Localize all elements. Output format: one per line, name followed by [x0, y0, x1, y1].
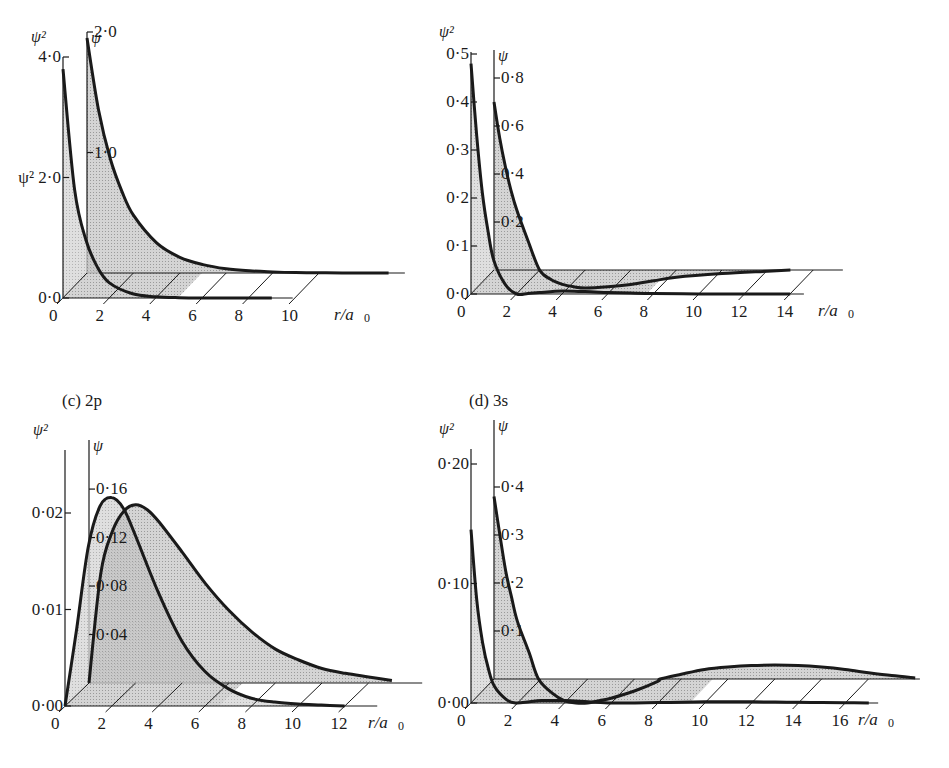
panel-c-x-tick-12: 12	[331, 715, 348, 732]
panel-d-psi-squared-tick-label: 0·10	[438, 575, 469, 592]
panel-a-psi-squared-tick-label: ψ² 2·0	[18, 169, 61, 186]
panel-d-grid-r16	[839, 679, 868, 709]
panel-c-x-tick-0: 0	[51, 715, 60, 732]
panel-d-x-tick-14: 14	[785, 712, 802, 729]
panel-a-x-tick-6: 6	[188, 307, 197, 324]
panel-d-psi-squared-tick-label: 0·20	[438, 455, 469, 472]
panel-b-psi-area	[494, 102, 790, 288]
panel-a-psi-squared-tick-label: 0·0	[38, 289, 61, 306]
panel-c-x-tick-4: 4	[144, 715, 153, 732]
panel-c-grid-r10	[292, 683, 322, 712]
panel-c-x-tick-2: 2	[98, 715, 107, 732]
panel-c-psi-tick-label: 0·04	[96, 626, 127, 643]
panel-d-x-tick-6: 6	[597, 712, 606, 729]
orbital-wavefunction-figure: (c) 2p (d) 3s 02468100·0ψ² 2·04·0ψ²1·02·…	[0, 0, 949, 768]
panel-d-psi-squared-axis-title: ψ²	[439, 421, 454, 437]
panel-b-psi-squared-tick-label: 0·4	[446, 93, 469, 110]
panel-b-psi-tick-label: 0·4	[501, 165, 524, 182]
panel-b-psi-squared-axis-title: ψ²	[439, 24, 454, 40]
panel-a-psi-axis-title: ψ	[91, 30, 101, 46]
panel-a-psi-tick-label: 1·0	[94, 144, 117, 161]
panel-d-x-tick-4: 4	[551, 712, 560, 729]
panel-a-x-tick-2: 2	[95, 307, 104, 324]
chart-canvas	[0, 0, 949, 768]
panel-c-psi-tick-label: 0·12	[96, 529, 127, 546]
panel-b-x-tick-8: 8	[639, 303, 648, 320]
panel-b-x-tick-12: 12	[731, 303, 748, 320]
panel-c-x-tick-10: 10	[284, 715, 301, 732]
panel-c-grid-r12	[339, 683, 369, 712]
panel-d-grid-r12	[746, 679, 775, 709]
panel-b-x-tick-14: 14	[776, 303, 793, 320]
panel-a-x-tick-10: 10	[281, 307, 298, 324]
panel-c-psi-squared-tick-label: 0·01	[32, 601, 63, 618]
panel-b-x-tick-10: 10	[685, 303, 702, 320]
panel-d-x-axis-title: r/a	[858, 711, 878, 728]
panel-b-x-tick-4: 4	[548, 303, 557, 320]
panel-c-psi-squared-tick-label: 0·02	[32, 504, 63, 521]
panel-d-x-axis-title-subscript: 0	[888, 717, 894, 729]
panel-c-title: (c) 2p	[62, 391, 102, 411]
panel-b-x-tick-6: 6	[594, 303, 603, 320]
panel-d-title: (d) 3s	[469, 391, 508, 411]
panel-d-psi-tick-label: 0·4	[501, 478, 524, 495]
panel-a-psi-squared-tick-label: 4·0	[38, 48, 61, 65]
panel-c-psi-tick-label: 0·16	[96, 480, 127, 497]
panel-c-psi-tick-label: 0·08	[96, 577, 127, 594]
panel-d-x-tick-8: 8	[644, 712, 653, 729]
panel-b-psi-squared-tick-label: 0·1	[446, 237, 469, 254]
panel-a-x-axis-title-subscript: 0	[364, 312, 370, 324]
panel-a-x-tick-8: 8	[235, 307, 244, 324]
panel-c-psi-squared-tick-label: 0·00	[32, 697, 63, 714]
panel-d-x-tick-10: 10	[691, 712, 708, 729]
panel-a-grid-r10	[289, 273, 319, 304]
panel-d-psi-axis-title: ψ	[498, 418, 508, 434]
panel-d-psi-squared-tick-label: 0·00	[438, 694, 469, 711]
panel-d-psi-tick-label: 0·1	[501, 622, 524, 639]
panel-b-psi-tick-label: 0·2	[501, 213, 524, 230]
panel-d-x-tick-0: 0	[457, 712, 466, 729]
panel-a-x-tick-4: 4	[142, 307, 151, 324]
panel-b-x-axis-title-subscript: 0	[848, 308, 854, 320]
panel-d-psi-tick-label: 0·2	[501, 574, 524, 591]
panel-a-x-axis-title: r/a	[334, 306, 354, 323]
panel-d-x-tick-16: 16	[831, 712, 848, 729]
panel-b-psi-squared-tick-label: 0·5	[446, 45, 469, 62]
panel-b-psi-squared-tick-label: 0·2	[446, 189, 469, 206]
panel-d-x-tick-2: 2	[504, 712, 513, 729]
panel-b-x-tick-2: 2	[503, 303, 512, 320]
panel-a-psi-area	[87, 38, 389, 273]
panel-c-x-tick-8: 8	[237, 715, 246, 732]
panel-d-psi-tick-label: 0·3	[501, 526, 524, 543]
panel-c-x-axis-title: r/a	[368, 714, 388, 731]
panel-b-psi-axis-title: ψ	[498, 48, 508, 64]
panel-c-psi-axis-title: ψ	[93, 438, 103, 454]
panel-c-x-tick-6: 6	[191, 715, 200, 732]
panel-c-psi-squared-axis-title: ψ²	[33, 422, 48, 438]
panel-d-psi-area	[494, 497, 915, 704]
panel-d-x-tick-12: 12	[738, 712, 755, 729]
panel-a-psi-squared-axis-title: ψ²	[31, 29, 46, 45]
panel-b-psi-curve	[494, 102, 790, 288]
panel-b-psi-squared-tick-label: 0·0	[446, 285, 469, 302]
panel-b-psi-squared-tick-label: 0·3	[446, 141, 469, 158]
panel-b-x-tick-0: 0	[457, 303, 466, 320]
panel-b-x-axis-title: r/a	[818, 302, 838, 319]
panel-c-x-axis-title-subscript: 0	[398, 720, 404, 732]
panel-b-psi-tick-label: 0·6	[501, 117, 524, 134]
panel-a-x-tick-0: 0	[49, 307, 58, 324]
panel-b-psi-tick-label: 0·8	[501, 69, 524, 86]
panel-d-grid-r14	[793, 679, 822, 709]
